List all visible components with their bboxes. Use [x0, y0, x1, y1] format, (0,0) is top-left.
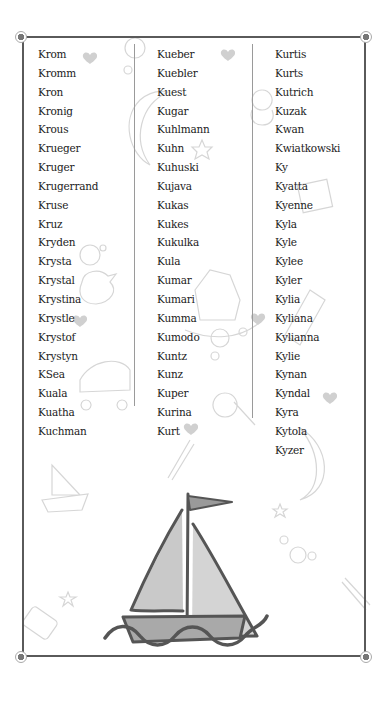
name-item: Kylia — [275, 290, 340, 309]
name-item: Kyra — [275, 403, 340, 422]
corner-rivet-icon — [360, 651, 372, 663]
name-item: Kuebler — [157, 64, 210, 83]
name-item: Kumar — [157, 271, 210, 290]
name-item: Kumma — [157, 309, 210, 328]
name-item: Kukulka — [157, 233, 210, 252]
name-item: Kuala — [38, 384, 98, 403]
name-item: Kukas — [157, 196, 210, 215]
corner-rivet-icon — [360, 31, 372, 43]
name-item: Kylie — [275, 347, 340, 366]
name-item: Krous — [38, 120, 98, 139]
name-item: Kruger — [38, 158, 98, 177]
name-item: Kyenne — [275, 196, 340, 215]
name-item: Kuest — [157, 83, 210, 102]
name-item: Krystina — [38, 290, 98, 309]
name-item: Kuhn — [157, 139, 210, 158]
name-item: Kula — [157, 252, 210, 271]
name-item: Kylianna — [275, 328, 340, 347]
name-item: Kueber — [157, 45, 210, 64]
name-item: Kron — [38, 83, 98, 102]
name-item: Kyla — [275, 215, 340, 234]
name-column-2: Kueber Kuebler Kuest Kugar Kuhlmann Kuhn… — [157, 45, 210, 441]
name-column-3: Kurtis Kurts Kutrich Kuzak Kwan Kwiatkow… — [275, 45, 340, 460]
name-item: Kuatha — [38, 403, 98, 422]
name-item: Kyler — [275, 271, 340, 290]
name-item: Krystyn — [38, 347, 98, 366]
name-item: Krystle — [38, 309, 98, 328]
name-item: Kytola — [275, 422, 340, 441]
name-item: Krysta — [38, 252, 98, 271]
name-item: KSea — [38, 365, 98, 384]
name-item: Kukes — [157, 215, 210, 234]
column-divider — [252, 44, 253, 418]
name-item: Kuntz — [157, 347, 210, 366]
name-item: Krom — [38, 45, 98, 64]
name-item: Kuhuski — [157, 158, 210, 177]
name-item: Kujava — [157, 177, 210, 196]
name-item: Krugerrand — [38, 177, 98, 196]
name-item: Kuper — [157, 384, 210, 403]
name-item: Kynan — [275, 365, 340, 384]
name-item: Kurts — [275, 64, 340, 83]
column-divider — [134, 44, 135, 406]
name-item: Kyle — [275, 233, 340, 252]
corner-rivet-icon — [15, 31, 27, 43]
name-item: Kumodo — [157, 328, 210, 347]
name-item: Krystal — [38, 271, 98, 290]
name-item: Kryden — [38, 233, 98, 252]
name-item: Kruse — [38, 196, 98, 215]
name-item: Kromm — [38, 64, 98, 83]
name-item: Krueger — [38, 139, 98, 158]
name-item: Kurt — [157, 422, 210, 441]
sailboat-icon — [95, 488, 295, 648]
name-item: Kurtis — [275, 45, 340, 64]
name-item: Kuchman — [38, 422, 98, 441]
name-item: Kumari — [157, 290, 210, 309]
name-item: Kyndal — [275, 384, 340, 403]
name-item: Kunz — [157, 365, 210, 384]
name-item: Kugar — [157, 102, 210, 121]
name-column-1: Krom Kromm Kron Kronig Krous Krueger Kru… — [38, 45, 98, 441]
name-item: Kruz — [38, 215, 98, 234]
name-item: Kwan — [275, 120, 340, 139]
name-item: Kronig — [38, 102, 98, 121]
name-item: Kurina — [157, 403, 210, 422]
name-list-page: Krom Kromm Kron Kronig Krous Krueger Kru… — [0, 0, 386, 711]
name-item: Kyzer — [275, 441, 340, 460]
name-item: Kuhlmann — [157, 120, 210, 139]
corner-rivet-icon — [15, 651, 27, 663]
name-item: Ky — [275, 158, 340, 177]
name-item: Kwiatkowski — [275, 139, 340, 158]
name-item: Krystof — [38, 328, 98, 347]
name-item: Kuzak — [275, 102, 340, 121]
name-item: Kylee — [275, 252, 340, 271]
name-item: Kyliana — [275, 309, 340, 328]
name-item: Kutrich — [275, 83, 340, 102]
name-item: Kyatta — [275, 177, 340, 196]
